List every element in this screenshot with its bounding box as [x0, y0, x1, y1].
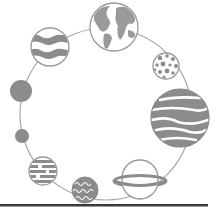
- dashed-planet: [29, 157, 57, 185]
- large-striped-planet: [151, 89, 209, 147]
- spotted-planet: [153, 53, 179, 79]
- small-solid-planet: [15, 129, 29, 143]
- wavy-striped-planet: [30, 28, 70, 66]
- planets-orbit-illustration: [0, 0, 216, 213]
- earth-planet: [90, 3, 138, 51]
- squiggle-planet: [72, 177, 98, 203]
- ringed-planet: [114, 160, 166, 199]
- baseline-divider: [0, 204, 208, 207]
- medium-solid-planet: [10, 80, 32, 102]
